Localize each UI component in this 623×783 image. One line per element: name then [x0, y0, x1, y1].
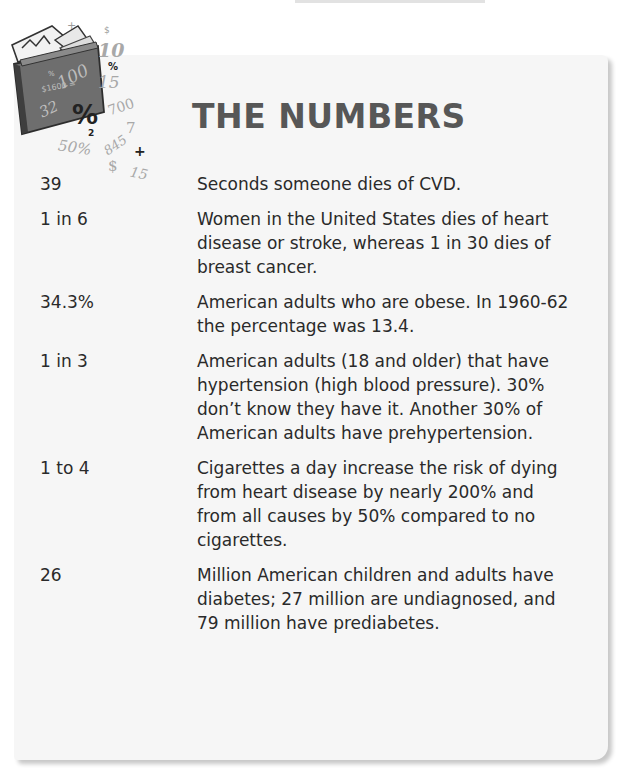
card-title: THE NUMBERS — [192, 97, 466, 137]
list-item: 1 to 4 Cigarettes a day increase the ris… — [40, 456, 595, 552]
svg-text:+: + — [67, 19, 76, 32]
list-item: 34.3% American adults who are obese. In … — [40, 290, 595, 338]
stat-number: 1 in 3 — [40, 349, 197, 445]
stat-number: 34.3% — [40, 290, 197, 338]
svg-text:2: 2 — [88, 128, 94, 138]
list-item: 39 Seconds someone dies of CVD. — [40, 172, 595, 196]
svg-text:+: + — [134, 143, 146, 159]
numbers-list: 39 Seconds someone dies of CVD. 1 in 6 W… — [40, 172, 595, 646]
stat-description: Million American children and adults hav… — [197, 563, 577, 635]
stat-description: Women in the United States dies of heart… — [197, 207, 577, 279]
page-header-rule — [295, 0, 485, 3]
stat-description: American adults (18 and older) that have… — [197, 349, 577, 445]
stat-description: Cigarettes a day increase the risk of dy… — [197, 456, 577, 552]
stat-description: Seconds someone dies of CVD. — [197, 172, 577, 196]
svg-text:10: 10 — [98, 39, 124, 61]
list-item: 26 Million American children and adults … — [40, 563, 595, 635]
svg-text:700: 700 — [106, 95, 136, 118]
stat-number: 26 — [40, 563, 197, 635]
svg-text:7: 7 — [126, 119, 136, 137]
stat-number: 1 in 6 — [40, 207, 197, 279]
svg-text:%: % — [72, 100, 98, 130]
list-item: 1 in 6 Women in the United States dies o… — [40, 207, 595, 279]
stat-number: 39 — [40, 172, 197, 196]
svg-text:50%: 50% — [57, 136, 93, 158]
list-item: 1 in 3 American adults (18 and older) th… — [40, 349, 595, 445]
svg-text:15: 15 — [98, 72, 120, 92]
stat-description: American adults who are obese. In 1960-6… — [197, 290, 577, 338]
svg-text:%: % — [108, 61, 118, 72]
stat-number: 1 to 4 — [40, 456, 197, 552]
svg-text:%: % — [48, 70, 55, 78]
folder-of-numbers-icon: 100 $1600 = 32 % + $ 10 % 15 % 700 2 7 5… — [0, 0, 190, 185]
svg-text:$: $ — [104, 25, 110, 35]
